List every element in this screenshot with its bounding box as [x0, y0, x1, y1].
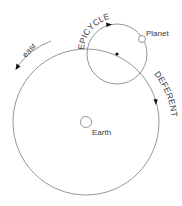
east-label: east — [20, 41, 38, 59]
east-arrow-icon — [16, 64, 21, 71]
planet-label: Planet — [146, 29, 169, 38]
epicycle-diagram: EPICYCLE DEFERENT east Planet Earth — [0, 0, 182, 206]
earth-label: Earth — [92, 128, 111, 137]
epicycle-center-dot — [115, 52, 118, 55]
earth-icon — [81, 117, 92, 128]
epicycle-label: EPICYCLE — [76, 11, 111, 50]
planet-icon — [139, 36, 146, 43]
epicycle-arrow-icon — [106, 23, 112, 28]
deferent-label: DEFERENT — [152, 69, 179, 117]
diagram-canvas: EPICYCLE DEFERENT east Planet Earth — [0, 0, 182, 206]
